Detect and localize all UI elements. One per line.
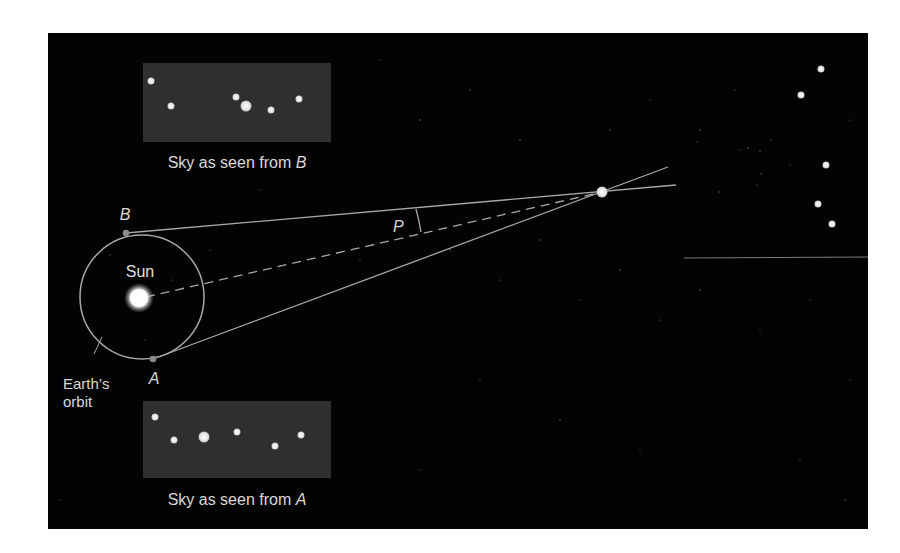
sky-a-star <box>234 429 241 436</box>
sun-label: Sun <box>126 263 154 280</box>
distant-star <box>829 221 836 228</box>
sky-b-star <box>233 94 240 101</box>
distant-star <box>823 162 830 169</box>
sky-a-caption: Sky as seen from A <box>168 491 307 508</box>
distant-star <box>798 92 805 99</box>
sky-box-b <box>143 63 331 142</box>
sky-a-star <box>199 432 210 443</box>
sky-b-star <box>296 96 303 103</box>
sky-box-a <box>143 401 331 478</box>
distant-star <box>815 201 822 208</box>
earth-position-a <box>150 356 157 363</box>
earth-orbit-label-line2: orbit <box>63 393 93 410</box>
earth-position-b <box>123 230 130 237</box>
sky-a-star <box>272 443 279 450</box>
sky-b-star <box>148 78 155 85</box>
point-a-label: A <box>148 370 160 387</box>
sun <box>130 289 148 307</box>
parallax-angle-label: P <box>393 218 404 235</box>
sky-a-star <box>152 414 159 421</box>
sky-a-star <box>171 437 178 444</box>
point-b-label: B <box>120 206 131 223</box>
sky-b-star <box>168 103 175 110</box>
sky-b-star <box>241 101 252 112</box>
sky-b-star <box>268 107 275 114</box>
sky-b-caption: Sky as seen from B <box>168 154 307 171</box>
parallax-diagram: Sky as seen from B Sky as seen from A P … <box>0 0 900 553</box>
earth-orbit-label-line1: Earth’s <box>63 375 109 392</box>
distant-star <box>818 66 825 73</box>
sky-a-star <box>298 432 305 439</box>
nearby-star <box>597 187 608 198</box>
